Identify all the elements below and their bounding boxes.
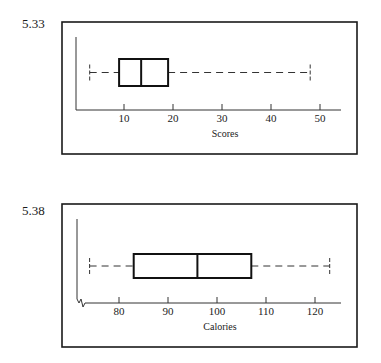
x-tick-label: 100 (209, 305, 226, 317)
iqr-box (134, 254, 252, 278)
iqr-box (119, 59, 168, 86)
x-tick-label: 30 (217, 112, 229, 124)
x-tick-label: 110 (258, 305, 275, 317)
x-tick-label: 80 (114, 305, 126, 317)
x-tick-label: 50 (315, 112, 327, 124)
x-tick-label: 20 (168, 112, 180, 124)
x-tick-label: 40 (266, 112, 278, 124)
x-tick-label: 10 (119, 112, 131, 124)
boxplot-chart-2: 8090100110120Calories (62, 204, 357, 347)
x-tick-label: 120 (307, 305, 324, 317)
x-tick-label: 90 (163, 305, 175, 317)
x-axis-label: Scores (212, 128, 239, 139)
x-axis-label: Calories (203, 321, 236, 332)
boxplot-figures: 1020304050Scores8090100110120Calories (0, 0, 381, 363)
boxplot-chart-1: 1020304050Scores (62, 22, 357, 154)
chart-frame (62, 22, 357, 154)
